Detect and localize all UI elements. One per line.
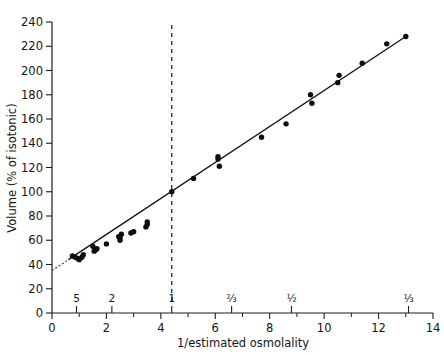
osmolality-ticks — [76, 306, 408, 313]
osmolality-tick-label: 2 — [109, 292, 116, 304]
x-tick-label: 8 — [266, 321, 273, 335]
data-point — [384, 41, 389, 46]
x-tick-label: 0 — [48, 321, 55, 335]
data-point — [94, 246, 99, 251]
y-tick-label: 0 — [36, 306, 43, 320]
data-point — [81, 252, 86, 257]
y-axis-ticks — [46, 22, 52, 313]
data-point — [119, 231, 124, 236]
data-point — [336, 73, 341, 78]
y-tick-label: 20 — [28, 282, 43, 296]
y-tick-label: 80 — [28, 209, 43, 223]
data-point — [104, 241, 109, 246]
x-tick-label: 4 — [157, 321, 164, 335]
y-tick-label: 180 — [21, 88, 43, 102]
extrapolated segment — [52, 257, 72, 270]
data-point — [335, 80, 340, 85]
x-tick-label: 6 — [212, 321, 219, 335]
y-tick-label: 140 — [21, 136, 43, 150]
x-axis-title: 1/estimated osmolality — [177, 336, 309, 350]
y-axis-group: 020406080100120140160180200220240 Volume… — [5, 15, 52, 320]
osmolality-tick-label: ½ — [286, 292, 296, 304]
regression line — [68, 37, 405, 260]
y-tick-label: 240 — [21, 15, 43, 29]
osmolality-tick-label: 5 — [73, 292, 80, 304]
x-axis-ticks — [52, 313, 433, 319]
data-point — [360, 61, 365, 66]
data-point — [169, 189, 174, 194]
data-point — [259, 134, 264, 139]
y-tick-label: 220 — [21, 39, 43, 53]
data-point — [191, 176, 196, 181]
data-point — [308, 92, 313, 97]
data-point — [131, 229, 136, 234]
y-axis-tick-labels: 020406080100120140160180200220240 — [21, 15, 43, 320]
fit-line-layer — [52, 37, 406, 271]
figure-container: 020406080100120140160180200220240 Volume… — [0, 0, 444, 355]
osmolality-tick-label: ⅓ — [403, 292, 413, 304]
x-tick-label: 10 — [317, 321, 332, 335]
osmolality-volume-scatter-plot: 020406080100120140160180200220240 Volume… — [0, 0, 444, 355]
y-axis-title: Volume (% of isotonic) — [5, 103, 19, 232]
y-tick-label: 120 — [21, 161, 43, 175]
y-tick-label: 160 — [21, 112, 43, 126]
data-point — [217, 164, 222, 169]
x-axis-tick-labels: 02468101214 — [48, 321, 440, 335]
osmolality-tick-labels: 521⅔½⅓ — [73, 292, 413, 304]
y-tick-label: 60 — [28, 233, 43, 247]
data-point — [215, 154, 220, 159]
data-point — [403, 34, 408, 39]
data-point — [117, 238, 122, 243]
y-tick-label: 200 — [21, 64, 43, 78]
data-point — [283, 121, 288, 126]
x-tick-label: 2 — [103, 321, 110, 335]
data-point — [145, 219, 150, 224]
secondary-osmolality-axis: 521⅔½⅓ — [73, 292, 413, 313]
x-axis-group: 02468101214 1/estimated osmolality — [48, 313, 440, 350]
osmolality-tick-label: ⅔ — [227, 292, 237, 304]
data-point — [309, 101, 314, 106]
x-tick-label: 12 — [371, 321, 386, 335]
y-tick-label: 100 — [21, 185, 43, 199]
y-tick-label: 40 — [28, 258, 43, 272]
x-tick-label: 14 — [426, 321, 441, 335]
